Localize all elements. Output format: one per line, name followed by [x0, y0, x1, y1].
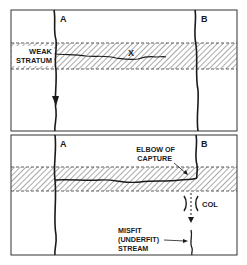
top-panel: WEAK STRATUM A B X: [11, 10, 237, 131]
top-panel-frame: [11, 10, 237, 131]
weak-label: WEAK: [29, 47, 52, 56]
river-b-label: B: [201, 14, 208, 24]
elbow-label-1: ELBOW OF: [136, 145, 175, 154]
misfit-label-1: MISFIT: [118, 226, 142, 235]
misfit-label-2: (UNDERFIT): [118, 235, 160, 244]
misfit-label-3: STREAM: [118, 244, 148, 253]
river-a-label: A: [60, 14, 67, 24]
stratum-label: STRATUM: [16, 56, 52, 65]
bottom-panel: A B ELBOW OF CAPTURE COL MISFIT (UNDERFI…: [11, 135, 237, 255]
elbow-label-2: CAPTURE: [137, 154, 172, 163]
col-label: COL: [202, 200, 218, 209]
river-a-label-bottom: A: [60, 139, 67, 149]
x-mark: X: [128, 48, 134, 58]
weak-stratum-band-bottom: [11, 167, 237, 191]
river-capture-diagram: WEAK STRATUM A B X A B ELBOW OF CAPTURE: [0, 0, 247, 265]
river-b-label-bottom: B: [201, 139, 208, 149]
